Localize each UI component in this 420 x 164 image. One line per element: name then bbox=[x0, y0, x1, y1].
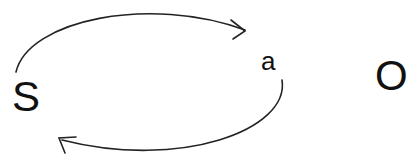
node-s: S bbox=[12, 76, 40, 118]
arrow-s-to-a bbox=[16, 14, 245, 72]
node-a: a bbox=[261, 48, 275, 74]
arrow-a-to-s bbox=[62, 80, 282, 150]
arrows-layer bbox=[0, 0, 420, 164]
arrowhead-s-to-a-icon bbox=[231, 20, 245, 39]
diagram-canvas: S a O bbox=[0, 0, 420, 164]
node-o: O bbox=[375, 55, 408, 97]
